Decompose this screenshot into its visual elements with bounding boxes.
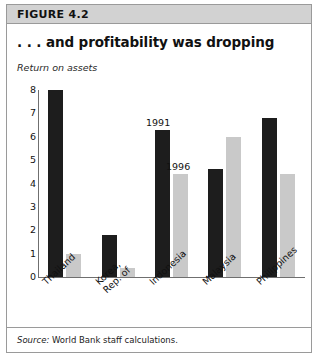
annotation-1991: 1991 [146,117,170,128]
y-axis-tick-5: 5 [10,155,36,164]
y-axis-tick-8: 8 [10,85,36,94]
source-label: Source: [17,335,49,345]
bar-philippines-1991 [262,118,277,277]
y-axis-tick-2: 2 [10,225,36,234]
figure-container: FIGURE 4.2 . . . and profitability was d… [6,4,312,353]
y-axis-tick-6: 6 [10,132,36,141]
y-axis-tick-labels: 012345678 [7,5,36,354]
y-axis-tick-1: 1 [10,249,36,258]
bars-layer: 19911996 [38,90,305,277]
bar-thailand-1991 [48,90,63,277]
y-axis-tick-7: 7 [10,108,36,117]
x-axis-category-labels: ThailandKorea,Rep. ofIndonesiaMalaysiaPh… [38,279,305,339]
y-axis-tick-3: 3 [10,202,36,211]
source-text: World Bank staff calculations. [52,335,178,345]
source-divider [7,327,311,328]
source-note: Source: World Bank staff calculations. [17,335,178,345]
bar-indonesia-1991 [155,130,170,277]
annotation-1996: 1996 [166,161,190,172]
y-axis-tick-4: 4 [10,179,36,188]
chart-plot-area: 012345678 19911996 ThailandKorea,Rep. of… [7,5,313,354]
y-axis-tick-0: 0 [10,272,36,281]
